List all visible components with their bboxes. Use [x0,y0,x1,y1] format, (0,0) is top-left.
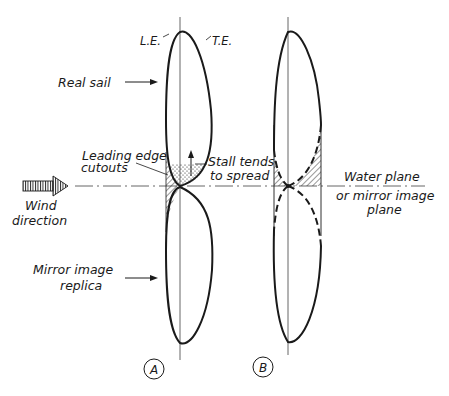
mirror-sail-b [274,230,321,342]
wind-direction-label-2: direction [12,213,67,228]
sail-mirror-diagram: A B L.E. T.E. Real sail Leading edge c [0,0,449,396]
leading-edge-cutouts-label-2: cutouts [81,160,128,175]
panel-b: B [253,17,321,377]
real-sail-b [274,31,321,150]
water-plane-label-1: Water plane [344,169,420,184]
mirror-sail-arrow-icon [150,275,158,281]
real-sail-label: Real sail [58,75,111,90]
stall-arrow-icon [188,150,194,158]
real-sail-arrow-icon [150,79,158,85]
trailing-edge-label: T.E. [212,34,232,48]
panel-b-label: B [259,361,267,375]
mirror-sail-a [166,187,212,343]
water-plane-label-3: plane [366,202,402,217]
leading-edge-label: L.E. [140,34,161,48]
panel-a-label: A [149,363,158,377]
stall-label-1: Stall tends [208,154,275,169]
cutout-hatch-left-b [274,148,286,186]
real-sail-a [166,32,212,186]
mirror-image-label-1: Mirror image [33,262,114,277]
wind-arrow [23,176,68,196]
panel-a: A [125,17,212,379]
mirror-image-label-2: replica [60,278,102,293]
water-plane-label-2: or mirror image [336,188,435,203]
stall-label-2: to spread [210,168,269,183]
wind-direction-label-1: Wind [25,198,57,213]
cutout-hatch-right-b [292,123,321,186]
wind-arrow-icon [53,176,68,196]
